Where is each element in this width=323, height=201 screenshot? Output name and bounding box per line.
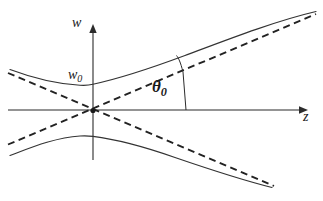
angle-reference-tick (183, 72, 186, 110)
origin-point (90, 108, 95, 113)
beam-diagram-svg (0, 0, 323, 201)
waist-symbol: w (68, 67, 77, 82)
theta-symbol: θ (152, 77, 161, 96)
divergence-angle-label: θ0 (152, 78, 167, 98)
vertical-axis (89, 24, 96, 160)
beam-envelope-upper (10, 12, 316, 86)
w-axis-label: w (72, 16, 81, 30)
figure-container: w w0 θ0 z (0, 0, 323, 201)
waist-subscript: 0 (77, 73, 82, 84)
beam-envelope-lower (10, 136, 272, 188)
theta-subscript: 0 (161, 85, 167, 99)
z-axis-label: z (303, 110, 308, 124)
asymptote-falling (8, 73, 274, 186)
horizontal-axis (8, 106, 308, 114)
beam-waist-label: w0 (68, 68, 82, 84)
arrow-up-icon (89, 24, 96, 33)
